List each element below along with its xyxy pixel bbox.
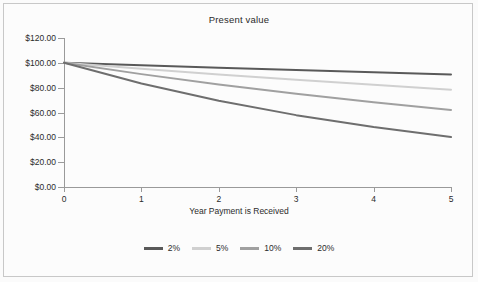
legend-swatch-icon (240, 247, 259, 250)
chart-legend: 2%5%10%20% (0, 244, 478, 253)
legend-swatch-icon (144, 247, 163, 250)
x-axis-title: Year Payment is Received (0, 206, 478, 216)
y-tick-label: $100.00 (0, 58, 56, 68)
x-tick-mark (374, 187, 375, 192)
series-line (64, 63, 451, 75)
x-tick-label: 1 (139, 194, 144, 204)
x-axis-line (64, 187, 452, 188)
x-tick-mark (451, 187, 452, 192)
series-line (64, 63, 451, 90)
x-tick-label: 3 (294, 194, 299, 204)
y-tick-label: $0.00 (0, 182, 56, 192)
x-tick-mark (64, 187, 65, 192)
series-lines (64, 38, 451, 187)
legend-swatch-icon (293, 247, 312, 250)
legend-label: 5% (216, 244, 228, 253)
x-tick-mark (219, 187, 220, 192)
y-tick-label: $120.00 (0, 33, 56, 43)
legend-label: 2% (168, 244, 180, 253)
chart-screenshot: Present value $0.00$20.00$40.00$60.00$80… (0, 0, 478, 282)
legend-swatch-icon (192, 247, 211, 250)
chart-title: Present value (0, 14, 478, 25)
x-tick-label: 4 (371, 194, 376, 204)
plot-area (64, 38, 451, 187)
x-tick-label: 2 (216, 194, 221, 204)
legend-item[interactable]: 20% (293, 244, 334, 253)
y-tick-label: $40.00 (0, 132, 56, 142)
legend-item[interactable]: 2% (144, 244, 180, 253)
x-tick-mark (141, 187, 142, 192)
x-tick-label: 0 (62, 194, 67, 204)
y-tick-label: $20.00 (0, 157, 56, 167)
y-tick-label: $80.00 (0, 83, 56, 93)
legend-label: 20% (317, 244, 334, 253)
legend-item[interactable]: 5% (192, 244, 228, 253)
x-tick-mark (296, 187, 297, 192)
legend-label: 10% (264, 244, 281, 253)
series-line (64, 63, 451, 137)
y-tick-label: $60.00 (0, 108, 56, 118)
x-tick-label: 5 (449, 194, 454, 204)
legend-item[interactable]: 10% (240, 244, 281, 253)
